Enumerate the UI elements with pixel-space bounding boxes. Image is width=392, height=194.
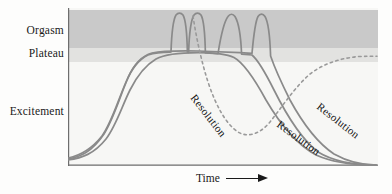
right-arrow-icon (226, 174, 270, 183)
plot-area: Resolution Resolution Resolution (68, 8, 378, 166)
y-axis-label-orgasm: Orgasm (27, 24, 64, 36)
y-axis-label-plateau: Plateau (29, 47, 64, 59)
x-axis-label: Time (196, 172, 220, 184)
x-axis-caption: Time (196, 172, 270, 184)
response-cycle-figure: Orgasm Plateau Excitement Resolution Res… (0, 0, 392, 194)
response-curves-svg: Resolution Resolution Resolution (68, 8, 378, 166)
y-axis-label-group: Orgasm Plateau Excitement (0, 0, 64, 194)
y-axis-label-excitement: Excitement (10, 105, 64, 117)
